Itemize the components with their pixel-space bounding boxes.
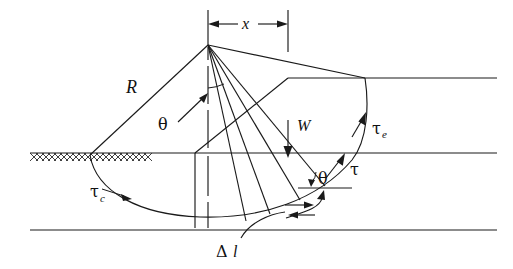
weight-arrowhead xyxy=(284,146,293,158)
slope-profile xyxy=(195,78,365,153)
x-dim-left-arrowhead xyxy=(208,20,219,27)
delta-l-bracket-upper-arrowhead xyxy=(317,190,325,200)
figure-root: x xyxy=(0,0,513,269)
delta-l-annotation: Δ l xyxy=(216,190,325,261)
tau-label: τ xyxy=(350,160,359,179)
slice-line-3 xyxy=(208,45,300,200)
tau-e-vector: τ e xyxy=(352,112,387,140)
theta-apex-label: θ xyxy=(158,115,168,134)
radius-label: R xyxy=(125,77,137,97)
delta-l-variable: l xyxy=(233,243,238,260)
tau-c-arrowhead xyxy=(121,194,132,201)
tau-c-arrow-line xyxy=(102,189,124,196)
x-dim-right-arrowhead xyxy=(277,20,288,27)
x-dimension-line: x xyxy=(208,10,288,52)
theta-base-annotation: θ xyxy=(298,169,352,188)
tau-arrow-line xyxy=(326,160,340,178)
slope-stability-diagram: x xyxy=(0,0,513,269)
theta-base-label: θ xyxy=(318,169,328,188)
tau-e-subscript: e xyxy=(382,128,387,140)
weight-vector: W xyxy=(284,117,313,158)
tau-e-symbol: τ xyxy=(372,119,381,138)
theta-apex-annotation: θ xyxy=(158,93,208,134)
weight-label: W xyxy=(297,117,312,134)
delta-l-leader-curve xyxy=(241,212,285,238)
delta-l-symbol: Δ xyxy=(216,242,228,261)
radius-line-left xyxy=(90,45,208,155)
tau-c-subscript: c xyxy=(100,192,105,204)
x-dimension-label: x xyxy=(241,15,249,32)
theta-apex-leader-line xyxy=(178,98,203,122)
circular-failure-arc xyxy=(90,78,367,217)
slope-face-line xyxy=(195,78,288,153)
tau-arrowhead xyxy=(337,153,345,166)
delta-l-measure-arrowhead-right xyxy=(304,202,314,209)
tau-c-symbol: τ xyxy=(90,182,99,201)
tau-c-vector: τ c xyxy=(90,182,132,204)
radius-lines xyxy=(90,45,365,155)
theta-base-arrowhead xyxy=(308,179,315,187)
theta-apex-arrowhead xyxy=(199,93,208,103)
